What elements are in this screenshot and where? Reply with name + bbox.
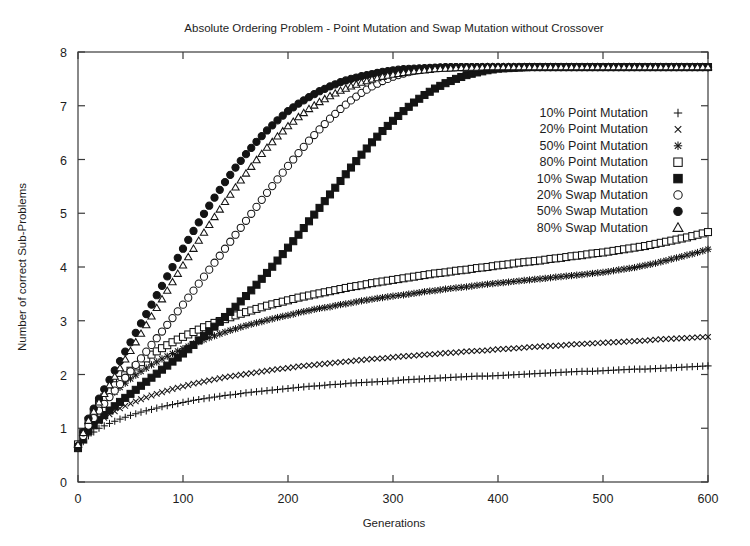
data-point-star [258,318,265,325]
data-point-star [510,278,517,285]
data-point-circle-open [200,273,207,280]
data-point-circle-open [190,287,197,294]
data-point-circle-open [269,183,276,190]
data-point-star [515,277,522,284]
data-point-star [662,257,669,264]
data-point-star [552,274,559,281]
y-tick-label: 5 [60,207,67,221]
data-point-circle-open [300,143,307,150]
x-tick-label: 400 [488,492,509,506]
data-point-circle-open [185,294,192,301]
data-point-circle-open [242,217,249,224]
data-point-star [232,325,239,332]
data-point-star [589,270,596,277]
x-tick-label: 600 [698,492,719,506]
data-point-star [274,314,281,321]
data-point-star [542,275,549,282]
x-tick-label: 500 [593,492,614,506]
data-point-circle-filled [179,245,186,252]
legend-label-7: 80% Swap Mutation [537,221,648,235]
data-point-square-filled [316,204,323,211]
data-point-circle-open [216,252,223,259]
data-point-circle-filled [190,227,197,234]
data-point-star [300,308,307,315]
legend-label-0: 10% Point Mutation [540,106,648,120]
data-point-circle-open [137,355,144,362]
data-point-circle-open [274,176,281,183]
data-point-circle-open [290,156,297,163]
data-point-star [626,265,633,272]
data-point-star [253,319,260,326]
data-point-star [536,275,543,282]
data-point-star [489,280,496,287]
data-point-star [221,328,228,335]
data-point-star [678,253,685,260]
data-point-circle-open [248,210,255,217]
data-point-square-filled [337,178,344,185]
data-point-circle-open [195,280,202,287]
y-tick-label: 1 [60,422,67,436]
data-point-star [526,276,533,283]
data-point-circle-open [232,231,239,238]
data-point-circle-filled [232,164,239,171]
data-point-star [458,284,465,291]
data-point-star [431,287,438,294]
data-point-circle-open [279,169,286,176]
data-point-circle-open [263,189,270,196]
data-point-star [557,273,564,280]
data-point-square-filled [311,211,318,218]
data-point-circle-filled [174,254,181,261]
y-tick-label: 3 [60,315,67,329]
data-point-star [636,263,643,270]
chart-title: Absolute Ordering Problem - Point Mutati… [184,22,603,34]
data-point-circle-filled [211,194,218,201]
data-point-star [521,277,528,284]
data-point-star [374,295,381,302]
legend-label-2: 50% Point Mutation [540,139,648,153]
data-point-star [279,313,286,320]
data-point-circle-filled [195,219,202,226]
data-point-star [610,267,617,274]
y-tick-label: 7 [60,100,67,114]
data-point-star [683,252,690,259]
data-point-square-open [705,229,712,236]
data-point-star [248,321,255,328]
data-point-star [547,274,554,281]
legend-marker-square-filled [674,174,682,182]
data-point-circle-open [164,321,171,328]
data-point-circle-filled [227,171,234,178]
y-tick-label: 6 [60,154,67,168]
data-point-star [694,249,701,256]
data-point-star [326,303,333,310]
data-point-star [668,256,675,263]
data-point-circle-filled [185,236,192,243]
data-point-star [384,293,391,300]
data-point-star [379,294,386,301]
data-point-star [269,315,276,322]
legend-label-3: 80% Point Mutation [540,155,648,169]
legend-marker-square-open [674,158,682,166]
data-point-circle-open [311,131,318,138]
data-point-star [463,283,470,290]
data-point-star [311,306,318,313]
data-point-circle-filled [258,133,265,140]
data-point-star [216,330,223,337]
data-point-square-filled [306,218,313,225]
data-point-star [673,254,680,261]
legend-label-5: 20% Swap Mutation [537,188,648,202]
data-point-square-filled [342,171,349,178]
data-point-circle-open [158,328,165,335]
data-point-circle-filled [242,151,249,158]
data-point-square-filled [295,231,302,238]
data-point-star [452,284,459,291]
data-point-circle-open [153,335,160,342]
data-point-star [563,273,570,280]
data-point-star [332,302,339,309]
data-point-star [531,276,538,283]
data-point-circle-filled [148,301,155,308]
data-point-circle-open [284,162,291,169]
y-tick-label: 4 [60,261,67,275]
data-point-star [305,307,312,314]
data-point-circle-filled [158,282,165,289]
data-point-star [500,279,507,286]
